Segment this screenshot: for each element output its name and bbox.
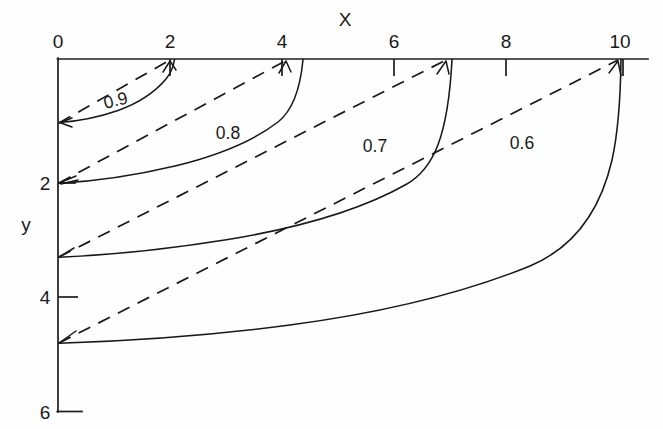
y-tick-label-2: 2 (40, 173, 51, 194)
y-axis-title: y (21, 214, 31, 235)
dashed-ray-06 (59, 60, 618, 343)
contour-label-07: 0.7 (363, 136, 387, 156)
contour-plot-canvas: X y 0 2 4 6 8 10 2 4 6 0.9 0.8 0.7 0.6 (0, 0, 663, 429)
x-tick-label-8: 8 (501, 31, 512, 52)
contour-curve-08 (59, 60, 303, 184)
arrowhead-07 (59, 248, 74, 257)
x-tick-label-2: 2 (165, 31, 176, 52)
dashed-ray-08 (59, 60, 287, 183)
x-axis-title: X (339, 9, 352, 30)
x-tick-label-10: 10 (609, 31, 630, 52)
contour-label-06: 0.6 (510, 133, 534, 153)
contour-label-09: 0.9 (101, 88, 129, 113)
arrowhead-06 (59, 331, 76, 343)
y-tick-label-4: 4 (40, 287, 51, 308)
figure-root: X y 0 2 4 6 8 10 2 4 6 0.9 0.8 0.7 0.6 (0, 0, 663, 429)
x-tick-label-6: 6 (389, 31, 400, 52)
y-tick-label-6: 6 (40, 402, 51, 423)
contour-label-08: 0.8 (216, 123, 240, 143)
x-tick-label-0: 0 (53, 31, 64, 52)
x-tick-label-4: 4 (277, 31, 288, 52)
